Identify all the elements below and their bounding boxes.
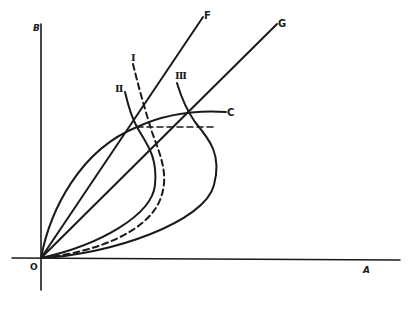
curve-c-label: C (227, 108, 234, 118)
x-axis-label: A (363, 266, 370, 275)
y-axis-label: B (33, 24, 40, 33)
ray-g-label: G (278, 19, 286, 29)
curve-iii-label: III (175, 71, 186, 81)
diagram-canvas (0, 0, 412, 319)
curve-i-label: I (131, 53, 135, 63)
ray-f-label: F (204, 11, 211, 21)
curve-c (41, 112, 226, 258)
diagram: B A O F G C I II III (0, 0, 412, 319)
x-axis (12, 258, 400, 260)
ray-g (41, 24, 277, 258)
curve-ii-label: II (115, 84, 122, 94)
origin-label: O (30, 263, 38, 272)
